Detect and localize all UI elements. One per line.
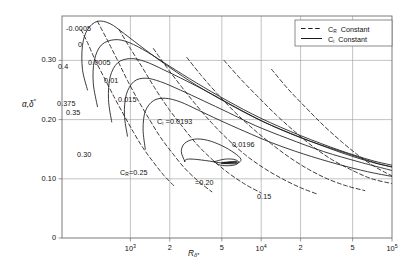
legend-text-ci: Ci Constant: [328, 35, 367, 44]
y-tick-1: 0.10: [0, 174, 56, 183]
curve-8: [97, 21, 211, 191]
label-cr-015: 0.15: [257, 192, 271, 201]
x-tick-3: 104: [252, 243, 270, 253]
label-cr-0375: 0.375: [57, 99, 76, 108]
legend-text-cr: CR Constant: [328, 25, 370, 34]
label-ci-00196: 0.0196: [232, 140, 255, 149]
x-tick-4: 2: [292, 243, 310, 252]
x-axis-title-text: Rδ*: [188, 249, 199, 258]
x-tick-0: 103: [121, 243, 139, 253]
label-cr-025: CR=0.25: [120, 168, 148, 177]
label-ci-neg0005: -0.0005: [66, 24, 91, 33]
label-ci-001: 0.01: [104, 76, 118, 85]
curve-11: [187, 57, 365, 190]
label-ci-00193: Ci =0.0193: [157, 117, 192, 126]
y-tick-0: 0: [0, 233, 56, 242]
label-cr-04: 0.4: [58, 62, 68, 71]
label-cr-035: 0.35: [66, 108, 80, 117]
x-tick-1: 2: [161, 243, 179, 252]
label-ci-0015: 0.015: [118, 95, 137, 104]
curve-7: [81, 30, 175, 187]
figure-root: 00.100.200.301032510425105α,δ*Rδ*CR Cons…: [0, 0, 407, 266]
curve-12: [224, 60, 392, 183]
y-tick-2: 0.20: [0, 115, 56, 124]
x-tick-2: 5: [213, 243, 231, 252]
y-axis-title-text: α,δ*: [22, 98, 36, 109]
curve-4: [143, 98, 392, 176]
plot-frame: [62, 16, 392, 238]
x-tick-6: 105: [383, 243, 401, 253]
x-tick-5: 5: [344, 243, 362, 252]
grid-layer: [59, 16, 393, 242]
label-cr-020: =0.20: [195, 178, 214, 187]
label-ci-0005: 0.0005: [88, 58, 111, 67]
label-ci-0: 0: [78, 40, 82, 49]
y-tick-3: 0.30: [0, 55, 56, 64]
label-cr-030: 0.30: [77, 150, 91, 159]
